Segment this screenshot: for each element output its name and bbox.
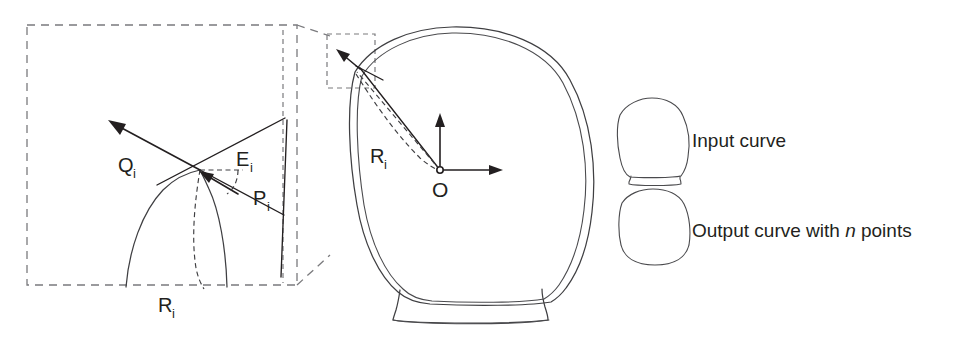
detail-label-q-subscript: i (133, 166, 136, 181)
legend-label-input-curve: Input curve (692, 130, 786, 151)
detail-inset-group: Q i E i P i R i (27, 25, 330, 321)
detail-vector-q-extension (200, 170, 284, 215)
callout-connector-bottom (297, 255, 330, 285)
detail-label-q-text: Q (118, 154, 134, 176)
main-shape-group: R i O (327, 27, 594, 324)
detail-label-p: P i (253, 187, 270, 214)
figure-canvas: Q i E i P i R i (0, 0, 966, 339)
legend-icon-output-curve-outline (619, 189, 690, 265)
detail-output-curve-arc (200, 170, 227, 287)
detail-label-r: R i (158, 294, 175, 321)
axis-x-arrowhead (489, 165, 503, 175)
legend-label-output-curve-head: Output curve with (692, 220, 845, 241)
legend-label-output-curve-tail: points (856, 220, 912, 241)
detail-inset-frame (27, 25, 297, 285)
main-label-r-subscript: i (384, 157, 387, 172)
main-label-r-text: R (370, 145, 384, 167)
legend-icon-input-curve-outline (617, 98, 689, 178)
callout-connector-top (297, 25, 330, 36)
detail-label-e-text: E (236, 148, 249, 170)
legend-label-output-curve: Output curve with n points (692, 220, 912, 241)
origin-dot (437, 167, 443, 173)
detail-label-e-subscript: i (250, 160, 253, 175)
origin-label: O (432, 178, 448, 201)
detail-vector-p-arrowhead (199, 171, 214, 183)
main-label-r: R i (370, 145, 387, 172)
base-foot-outline (393, 289, 548, 323)
detail-radius-arc (194, 170, 204, 289)
detail-label-p-text: P (253, 187, 266, 209)
diagram-svg: Q i E i P i R i (0, 0, 966, 339)
detail-label-q: Q i (118, 154, 136, 181)
boundary-node-arrowhead (336, 49, 350, 62)
detail-chord-right (281, 120, 287, 277)
legend-label-output-curve-emphasis: n (845, 220, 856, 241)
boundary-node-tangent (356, 66, 383, 80)
detail-vector-q-arrowhead (108, 120, 126, 135)
detail-label-p-subscript: i (267, 199, 270, 214)
legend-icon-output-curve (619, 189, 690, 265)
legend-group: Input curve Output curve with n points (617, 98, 911, 265)
detail-chord-upper (157, 118, 285, 185)
detail-input-curve-arc (126, 170, 200, 287)
detail-label-r-text: R (158, 294, 172, 316)
output-curve-outline (357, 33, 586, 302)
axis-y-arrowhead (435, 113, 445, 127)
detail-label-r-subscript: i (172, 306, 175, 321)
legend-icon-input-curve (617, 98, 689, 186)
